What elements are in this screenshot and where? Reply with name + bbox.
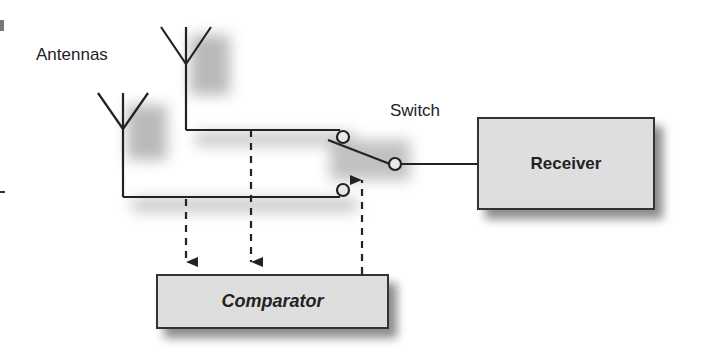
comparator-block: Comparator <box>156 274 389 329</box>
antenna-icon <box>161 27 340 130</box>
shadows <box>127 35 410 212</box>
receiver-block: Receiver <box>477 117 655 210</box>
antennas-label: Antennas <box>36 45 108 65</box>
switch-label: Switch <box>390 101 440 121</box>
